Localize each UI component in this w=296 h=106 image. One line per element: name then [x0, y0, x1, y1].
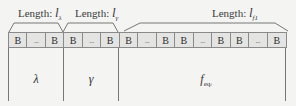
- length-prefix: Length:: [212, 7, 246, 19]
- section-label-f-eq: feqi: [127, 72, 285, 88]
- brace-f: [124, 23, 288, 31]
- gene-cell: B: [46, 33, 64, 47]
- gene-cell-ellipsis: ...: [249, 33, 267, 47]
- gene-cell: B: [212, 33, 230, 47]
- gene-cell: B: [231, 33, 249, 47]
- chromosome-encoding-diagram: Length: lλ Length: lγ Length: lf1 B ... …: [0, 0, 296, 106]
- section-lambda: λ: [8, 48, 63, 101]
- brace-gamma: [63, 23, 118, 32]
- length-sub: γ: [116, 14, 119, 22]
- gene-cell: B: [120, 33, 138, 47]
- length-label-f: Length: lf1: [212, 5, 258, 22]
- section-label-gamma: γ: [64, 72, 118, 87]
- gene-cell: B: [64, 33, 82, 47]
- section-gamma: γ: [63, 48, 118, 101]
- gene-cell-row: B ... B B ... B B ... B B ... B B ... B: [8, 32, 287, 48]
- section-sub-index: i: [210, 82, 211, 87]
- gene-cell: B: [9, 33, 27, 47]
- length-sub: f1: [253, 14, 258, 22]
- gene-cell-ellipsis: ...: [27, 33, 45, 47]
- length-label-lambda: Length: lλ: [18, 5, 62, 22]
- length-sub: λ: [59, 14, 62, 22]
- section-label-lambda: λ: [9, 72, 63, 87]
- gene-cell: B: [157, 33, 175, 47]
- section-f-eq: feqi: [118, 48, 286, 101]
- gene-cell: B: [175, 33, 193, 47]
- gene-cell-ellipsis: ...: [194, 33, 212, 47]
- gene-cell-ellipsis: ...: [83, 33, 101, 47]
- section-symbol: γ: [89, 72, 94, 86]
- length-prefix: Length:: [75, 7, 109, 19]
- length-prefix: Length:: [18, 7, 52, 19]
- gene-cell-ellipsis: ...: [138, 33, 156, 47]
- length-label-gamma: Length: lγ: [75, 5, 118, 22]
- gene-cell: B: [101, 33, 119, 47]
- section-symbol: λ: [33, 72, 38, 86]
- gene-cell: B: [268, 33, 286, 47]
- brace-lambda: [9, 23, 63, 32]
